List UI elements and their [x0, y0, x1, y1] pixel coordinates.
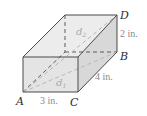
vertex-label-c: C	[70, 96, 79, 109]
vertex-label-d: D	[119, 9, 129, 22]
width-label: 4 in.	[95, 71, 113, 82]
vertex-label-a: A	[15, 95, 24, 108]
rectangular-prism-diagram: D B A C 2 in. 4 in. 3 in. d2 d1	[0, 0, 147, 116]
vertex-label-b: B	[119, 50, 128, 63]
height-label: 2 in.	[120, 28, 138, 39]
length-label: 3 in.	[40, 95, 58, 106]
front-face	[23, 57, 78, 92]
